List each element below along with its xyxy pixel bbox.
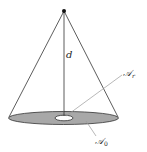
- cone-diagram: d 𝒜r 𝒜0: [0, 0, 147, 152]
- inner-hole: [55, 115, 73, 121]
- distance-label: d: [66, 49, 72, 60]
- cone-right-edge: [64, 11, 118, 117]
- inner-area-label: 𝒜r: [123, 68, 136, 79]
- cone-left-edge: [9, 11, 64, 117]
- point-source: [62, 9, 66, 13]
- outer-area-label: 𝒜0: [95, 136, 108, 147]
- inner-area-leader: [66, 75, 122, 116]
